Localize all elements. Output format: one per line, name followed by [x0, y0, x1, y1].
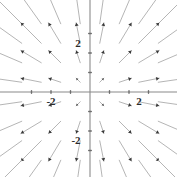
field-arrow — [100, 23, 105, 43]
field-arrow — [100, 50, 105, 62]
field-arrow — [75, 50, 80, 62]
x-axis-label: 2 — [136, 95, 142, 107]
field-arrow — [48, 23, 60, 43]
field-arrow — [158, 50, 177, 63]
arrow-shaft — [48, 160, 60, 177]
arrow-shaft — [21, 0, 41, 24]
field-arrow — [119, 141, 131, 161]
arrow-shaft — [100, 23, 104, 43]
arrow-head — [156, 103, 159, 107]
field-arrow — [100, 121, 105, 133]
field-arrow — [76, 102, 80, 106]
arrow-shaft — [119, 0, 131, 24]
arrow-head — [156, 77, 159, 81]
arrow-shaft — [100, 160, 104, 177]
arrow-shaft — [100, 141, 104, 161]
field-arrow — [0, 121, 22, 134]
arrow-shaft — [139, 121, 159, 133]
arrow-shaft — [158, 121, 177, 133]
field-arrow — [21, 0, 41, 24]
arrow-head — [21, 103, 24, 107]
field-arrow — [48, 0, 61, 24]
arrow-shaft — [0, 160, 22, 177]
arrow-shaft — [0, 23, 22, 43]
field-arrow — [75, 0, 81, 24]
arrow-shaft — [21, 78, 41, 82]
arrow-shaft — [139, 0, 159, 24]
field-arrow — [158, 121, 177, 134]
arrow-shaft — [119, 23, 131, 43]
field-arrow — [139, 121, 159, 133]
field-arrow — [0, 102, 22, 108]
arrow-shaft — [0, 50, 22, 62]
field-arrow — [21, 23, 41, 43]
arrow-head — [75, 158, 79, 161]
field-arrow — [0, 160, 22, 177]
arrow-shaft — [139, 102, 159, 106]
field-arrow — [158, 141, 177, 161]
arrow-shaft — [21, 141, 41, 161]
field-arrow — [119, 0, 132, 24]
field-arrow — [48, 50, 60, 62]
field-arrow — [0, 23, 22, 43]
field-arrow — [21, 160, 41, 177]
field-arrow — [21, 77, 41, 82]
field-arrow — [48, 141, 60, 161]
field-arrow — [75, 160, 81, 177]
arrow-head — [21, 77, 24, 81]
arrow-shaft — [100, 0, 104, 24]
arrow-shaft — [21, 23, 41, 43]
field-arrow — [100, 160, 106, 177]
arrow-shaft — [158, 50, 177, 62]
arrow-shaft — [119, 141, 131, 161]
field-arrow — [76, 78, 80, 82]
arrow-shaft — [0, 141, 22, 161]
arrow-shaft — [0, 78, 22, 82]
arrow-shaft — [158, 0, 177, 24]
field-arrow — [119, 102, 131, 107]
field-arrow — [100, 102, 104, 106]
arrow-shaft — [158, 160, 177, 177]
arrow-shaft — [76, 160, 80, 177]
field-arrow — [158, 0, 177, 24]
field-arrow — [139, 23, 159, 43]
arrow-shaft — [48, 23, 60, 43]
arrow-shaft — [21, 121, 41, 133]
field-arrow — [119, 160, 132, 177]
field-arrow — [119, 50, 131, 62]
arrow-shaft — [21, 160, 41, 177]
vector-field-canvas: -222-2 — [0, 0, 177, 177]
field-arrow — [139, 141, 159, 161]
field-arrow — [139, 102, 159, 107]
field-arrow — [0, 50, 22, 63]
field-arrow — [100, 141, 105, 161]
arrow-shaft — [139, 160, 159, 177]
field-arrow — [21, 50, 41, 62]
field-arrow — [158, 102, 177, 108]
field-arrow — [0, 77, 22, 83]
field-arrow — [158, 23, 177, 43]
arrow-shaft — [48, 0, 60, 24]
vector-field-plot: -222-2 — [0, 0, 177, 177]
arrow-shaft — [21, 102, 41, 106]
arrow-shaft — [0, 102, 22, 106]
arrow-head — [101, 158, 105, 161]
field-arrow — [119, 121, 131, 133]
field-arrow — [119, 23, 131, 43]
arrow-shaft — [158, 23, 177, 43]
field-arrow — [139, 50, 159, 62]
x-axis-label: -2 — [46, 95, 56, 107]
field-arrow — [0, 0, 22, 24]
field-arrow — [75, 121, 80, 133]
field-arrow — [100, 78, 104, 82]
field-arrow — [48, 77, 60, 82]
arrow-shaft — [48, 141, 60, 161]
field-arrow — [158, 160, 177, 177]
field-arrow — [21, 121, 41, 133]
arrow-shaft — [119, 160, 131, 177]
arrow-shaft — [158, 78, 177, 82]
arrow-shaft — [0, 0, 22, 24]
arrow-shaft — [0, 121, 22, 133]
field-arrow — [48, 160, 61, 177]
field-arrow — [21, 141, 41, 161]
